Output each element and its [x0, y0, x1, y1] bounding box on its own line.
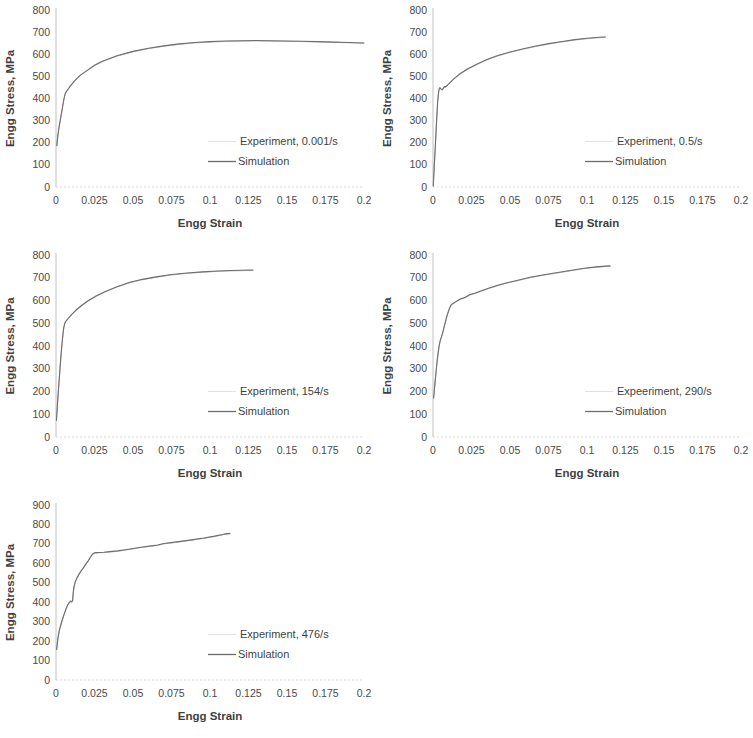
x-tick-label: 0 — [430, 444, 436, 456]
x-tick-label: 0.1 — [203, 194, 218, 206]
chart-panel-1: 010020030040050060070080000.0250.050.075… — [0, 0, 376, 245]
x-tick-label: 0.2 — [357, 687, 372, 699]
y-tick-label: 600 — [32, 294, 50, 306]
x-tick-label: 0.125 — [235, 194, 261, 206]
y-tick-label: 400 — [409, 92, 427, 104]
y-tick-label: 600 — [409, 48, 427, 60]
y-tick-label: 500 — [409, 317, 427, 329]
y-tick-label: 400 — [32, 340, 50, 352]
legend-label-experiment: Experiment, 154/s — [240, 385, 329, 397]
y-tick-label: 500 — [409, 70, 427, 82]
x-tick-label: 0.025 — [81, 194, 107, 206]
chart-panel-5: 010020030040050060070080090000.0250.050.… — [0, 495, 376, 738]
x-tick-label: 0.05 — [123, 687, 144, 699]
x-tick-label: 0.175 — [312, 687, 338, 699]
x-tick-label: 0 — [53, 444, 59, 456]
series-simulation-line — [57, 533, 230, 649]
y-tick-label: 0 — [421, 431, 427, 443]
series-simulation-line — [57, 41, 364, 146]
x-tick-label: 0.175 — [689, 444, 715, 456]
x-tick-label: 0.15 — [654, 194, 675, 206]
x-tick-label: 0.025 — [458, 444, 484, 456]
legend-label-simulation: Simulation — [238, 155, 289, 167]
y-tick-label: 100 — [32, 408, 50, 420]
y-tick-label: 600 — [32, 557, 50, 569]
x-tick-label: 0.2 — [734, 194, 749, 206]
x-axis-title: Engg Strain — [178, 710, 243, 722]
x-tick-label: 0.125 — [235, 687, 261, 699]
y-axis-title: Engg Stress, MPa — [381, 49, 393, 147]
series-experiment-line — [56, 270, 253, 420]
y-tick-label: 0 — [44, 181, 50, 193]
chart-canvas: 010020030040050060070080000.0250.050.075… — [0, 0, 376, 245]
y-tick-label: 100 — [409, 158, 427, 170]
x-tick-label: 0.2 — [357, 194, 372, 206]
x-tick-label: 0.05 — [123, 444, 144, 456]
x-tick-label: 0.175 — [689, 194, 715, 206]
x-tick-label: 0.075 — [158, 687, 184, 699]
y-tick-label: 300 — [409, 362, 427, 374]
y-tick-label: 700 — [32, 537, 50, 549]
series-experiment-line — [434, 266, 610, 398]
y-tick-label: 200 — [409, 136, 427, 148]
y-tick-label: 800 — [32, 249, 50, 261]
x-tick-label: 0.075 — [535, 194, 561, 206]
x-axis-title: Engg Strain — [555, 467, 620, 479]
y-tick-label: 700 — [409, 26, 427, 38]
legend-label-experiment: Experiment, 0.5/s — [617, 135, 703, 147]
legend-label-experiment: Expeeriment, 290/s — [617, 385, 712, 397]
x-tick-label: 0 — [430, 194, 436, 206]
y-tick-label: 200 — [409, 385, 427, 397]
y-tick-label: 100 — [32, 654, 50, 666]
y-tick-label: 300 — [32, 362, 50, 374]
y-tick-label: 500 — [32, 70, 50, 82]
x-tick-label: 0.075 — [158, 194, 184, 206]
legend-label-simulation: Simulation — [238, 405, 289, 417]
x-tick-label: 0.025 — [81, 687, 107, 699]
x-tick-label: 0 — [53, 194, 59, 206]
y-tick-label: 500 — [32, 576, 50, 588]
x-tick-label: 0 — [53, 687, 59, 699]
y-tick-label: 0 — [44, 674, 50, 686]
x-tick-label: 0.15 — [277, 444, 298, 456]
y-axis-title: Engg Stress, MPa — [4, 543, 16, 641]
y-tick-label: 300 — [32, 114, 50, 126]
y-tick-label: 400 — [409, 340, 427, 352]
x-tick-label: 0.125 — [235, 444, 261, 456]
series-simulation-line — [56, 270, 253, 420]
y-tick-label: 200 — [32, 136, 50, 148]
chart-canvas: 010020030040050060070080000.0250.050.075… — [0, 245, 376, 495]
x-tick-label: 0.05 — [500, 444, 521, 456]
y-tick-label: 100 — [32, 158, 50, 170]
x-tick-label: 0.175 — [312, 194, 338, 206]
y-tick-label: 800 — [32, 4, 50, 16]
x-tick-label: 0.1 — [580, 444, 595, 456]
y-tick-label: 600 — [32, 48, 50, 60]
y-axis-title: Engg Stress, MPa — [4, 297, 16, 395]
x-axis-title: Engg Strain — [178, 217, 243, 229]
y-tick-label: 600 — [409, 294, 427, 306]
y-tick-label: 400 — [32, 596, 50, 608]
legend-label-simulation: Simulation — [615, 155, 666, 167]
legend-label-simulation: Simulation — [615, 405, 666, 417]
y-tick-label: 400 — [32, 92, 50, 104]
series-experiment-line — [57, 41, 364, 146]
y-tick-label: 800 — [409, 249, 427, 261]
chart-panel-4: 010020030040050060070080000.0250.050.075… — [377, 245, 753, 495]
series-simulation-line — [434, 266, 610, 398]
x-tick-label: 0.175 — [312, 444, 338, 456]
x-tick-label: 0.1 — [203, 687, 218, 699]
legend-label-experiment: Experiment, 0.001/s — [240, 135, 338, 147]
y-tick-label: 800 — [409, 4, 427, 16]
y-tick-label: 300 — [409, 114, 427, 126]
y-tick-label: 0 — [44, 431, 50, 443]
x-tick-label: 0.2 — [734, 444, 749, 456]
y-axis-title: Engg Stress, MPa — [381, 297, 393, 395]
y-tick-label: 700 — [409, 271, 427, 283]
series-experiment-line — [57, 534, 230, 650]
x-axis-title: Engg Strain — [555, 217, 620, 229]
y-axis-title: Engg Stress, MPa — [4, 49, 16, 147]
chart-canvas: 010020030040050060070080000.0250.050.075… — [377, 245, 753, 495]
y-tick-label: 900 — [32, 499, 50, 511]
y-tick-label: 100 — [409, 408, 427, 420]
